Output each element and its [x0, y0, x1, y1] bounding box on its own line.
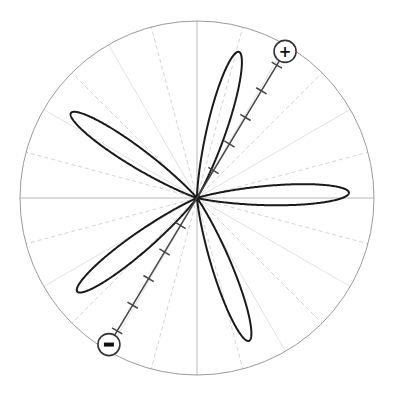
minus-icon: [104, 343, 114, 347]
grid-line-dashed: [197, 198, 243, 369]
grid-line-dashed: [26, 152, 197, 198]
grid-line-light: [197, 198, 350, 287]
grid-line-dashed: [26, 198, 197, 244]
negative-pole-marker: [98, 334, 120, 356]
plus-icon: +: [279, 43, 292, 61]
positive-pole-marker: +: [274, 40, 296, 62]
radiation-lobes: [71, 52, 349, 341]
grid-line-light: [44, 110, 197, 199]
grid-line-light: [44, 198, 197, 287]
polar-plot: +: [0, 0, 394, 399]
grid-line-light: [109, 45, 198, 198]
polar-diagram: +: [0, 0, 394, 399]
grid-line-dashed: [197, 198, 322, 323]
axis-tick: [175, 222, 185, 228]
grid-line-dashed: [197, 73, 322, 198]
grid-line-dashed: [151, 27, 197, 198]
